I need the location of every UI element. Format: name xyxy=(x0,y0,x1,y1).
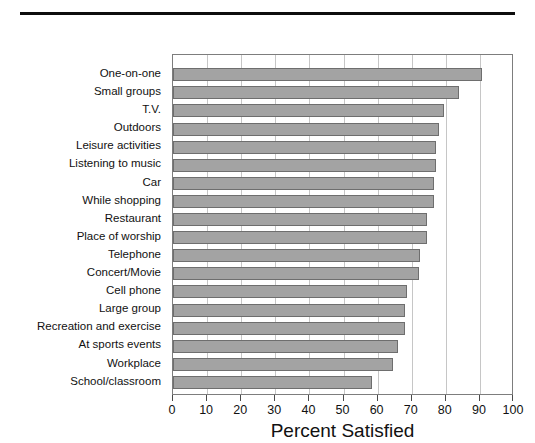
x-axis-tick-label: 100 xyxy=(493,403,533,417)
category-axis-labels: One-on-oneSmall groupsT.V.OutdoorsLeisur… xyxy=(0,64,166,392)
chart-page: One-on-oneSmall groupsT.V.OutdoorsLeisur… xyxy=(0,0,535,443)
top-horizontal-rule xyxy=(20,12,515,15)
category-label: Cell phone xyxy=(0,281,166,299)
category-label: Small groups xyxy=(0,82,166,100)
x-axis-tick xyxy=(479,395,480,401)
bar-row xyxy=(173,356,512,374)
bar xyxy=(173,267,419,280)
x-axis-tick xyxy=(377,395,378,401)
category-label: Listening to music xyxy=(0,154,166,172)
x-axis-tick xyxy=(445,395,446,401)
x-axis-tick xyxy=(411,395,412,401)
category-label: Concert/Movie xyxy=(0,263,166,281)
bar-row xyxy=(173,337,512,355)
bar-row xyxy=(173,301,512,319)
bar-series xyxy=(173,66,512,392)
category-label: Place of worship xyxy=(0,227,166,245)
bar xyxy=(173,195,434,208)
category-label: Restaurant xyxy=(0,209,166,227)
x-axis-tick xyxy=(308,395,309,401)
category-label: School/classroom xyxy=(0,372,166,390)
x-axis-tick xyxy=(172,395,173,401)
bar-row xyxy=(173,66,512,84)
bar-row xyxy=(173,319,512,337)
bar xyxy=(173,358,393,371)
bar-row xyxy=(173,102,512,120)
bar xyxy=(173,231,427,244)
category-label: Outdoors xyxy=(0,118,166,136)
bar-row xyxy=(173,156,512,174)
bar xyxy=(173,177,434,190)
category-label: Workplace xyxy=(0,354,166,372)
bar xyxy=(173,213,427,226)
category-label: While shopping xyxy=(0,191,166,209)
category-label: One-on-one xyxy=(0,64,166,82)
bar xyxy=(173,322,405,335)
bar xyxy=(173,86,459,99)
category-label: Telephone xyxy=(0,245,166,263)
bar-row xyxy=(173,193,512,211)
bar-row xyxy=(173,265,512,283)
x-axis-tick xyxy=(512,395,513,401)
bar-row xyxy=(173,175,512,193)
bar xyxy=(173,304,405,317)
bar xyxy=(173,123,439,136)
x-axis-tick xyxy=(206,395,207,401)
bar xyxy=(173,104,444,117)
bar-row xyxy=(173,229,512,247)
category-label: Leisure activities xyxy=(0,136,166,154)
x-axis-tick xyxy=(343,395,344,401)
bar-row xyxy=(173,247,512,265)
bar xyxy=(173,376,372,389)
bar-row xyxy=(173,84,512,102)
x-axis-title: Percent Satisfied xyxy=(172,420,513,442)
bar-row xyxy=(173,283,512,301)
bar-row xyxy=(173,138,512,156)
bar xyxy=(173,159,436,172)
bar-row xyxy=(173,120,512,138)
x-axis-tick xyxy=(274,395,275,401)
bar xyxy=(173,249,420,262)
bar-row xyxy=(173,374,512,392)
bar xyxy=(173,68,482,81)
plot-area xyxy=(172,54,513,395)
category-label: Car xyxy=(0,173,166,191)
category-label: T.V. xyxy=(0,100,166,118)
category-label: Large group xyxy=(0,299,166,317)
category-label: Recreation and exercise xyxy=(0,317,166,335)
bar xyxy=(173,340,398,353)
bar-chart-figure: One-on-oneSmall groupsT.V.OutdoorsLeisur… xyxy=(0,24,535,443)
x-axis-tick xyxy=(240,395,241,401)
category-label: At sports events xyxy=(0,335,166,353)
bar xyxy=(173,285,407,298)
bar-row xyxy=(173,211,512,229)
bar xyxy=(173,141,436,154)
